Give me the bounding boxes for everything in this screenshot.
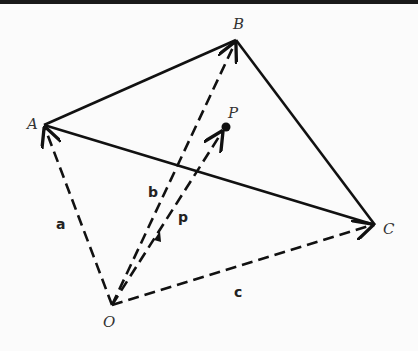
edge-ac [44, 125, 375, 225]
vector-label-b: b [148, 184, 158, 200]
vector-label-p: p [178, 209, 188, 225]
point-label-c: C [383, 220, 395, 238]
vector-label-c: c [234, 284, 242, 300]
edge-ab [44, 40, 236, 125]
point-label-b: B [232, 15, 244, 33]
point-label-a: A [25, 115, 38, 133]
point-label-p: P [227, 104, 239, 122]
vector-b [112, 43, 235, 305]
point-label-o: O [103, 313, 115, 331]
point-p-dot [222, 123, 231, 132]
vector-p [112, 132, 222, 305]
edge-bc [236, 40, 375, 225]
vector-triangle-diagram: A B C O P a b c p [0, 0, 418, 351]
vector-label-a: a [56, 216, 65, 232]
